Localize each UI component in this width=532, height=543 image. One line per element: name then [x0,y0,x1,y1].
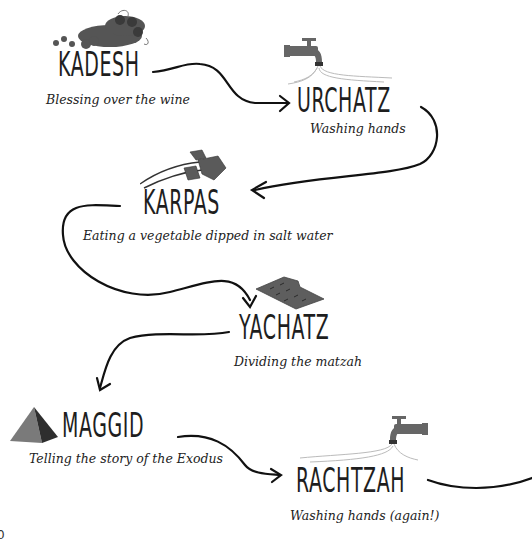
step-description: Washing hands [310,121,406,136]
faucet-icon [300,414,428,464]
step-title: MAGGID [62,405,144,445]
step-description: Eating a vegetable dipped in salt water [83,228,333,243]
step-title: RACHTZAH [296,460,405,500]
pyramid-icon [8,405,60,445]
step-title: YACHATZ [239,307,329,347]
step-title: URCHATZ [297,80,391,120]
faucet-icon [284,36,394,86]
step-description: Telling the story of the Exodus [29,451,223,466]
step-description: Blessing over the wine [46,92,190,107]
seder-flowchart: KADESH Blessing over the wine URCHATZ Wa… [0,0,532,543]
matzah-icon [256,275,326,311]
step-title: KADESH [58,44,140,84]
step-description: Washing hands (again!) [290,508,439,523]
cropped-glyph: 0 [0,528,5,542]
arrow-rachtzah-next [428,478,532,488]
arrow-yachatz-maggid [100,332,229,388]
step-description: Dividing the matzah [234,354,362,369]
step-title: KARPAS [143,182,220,222]
